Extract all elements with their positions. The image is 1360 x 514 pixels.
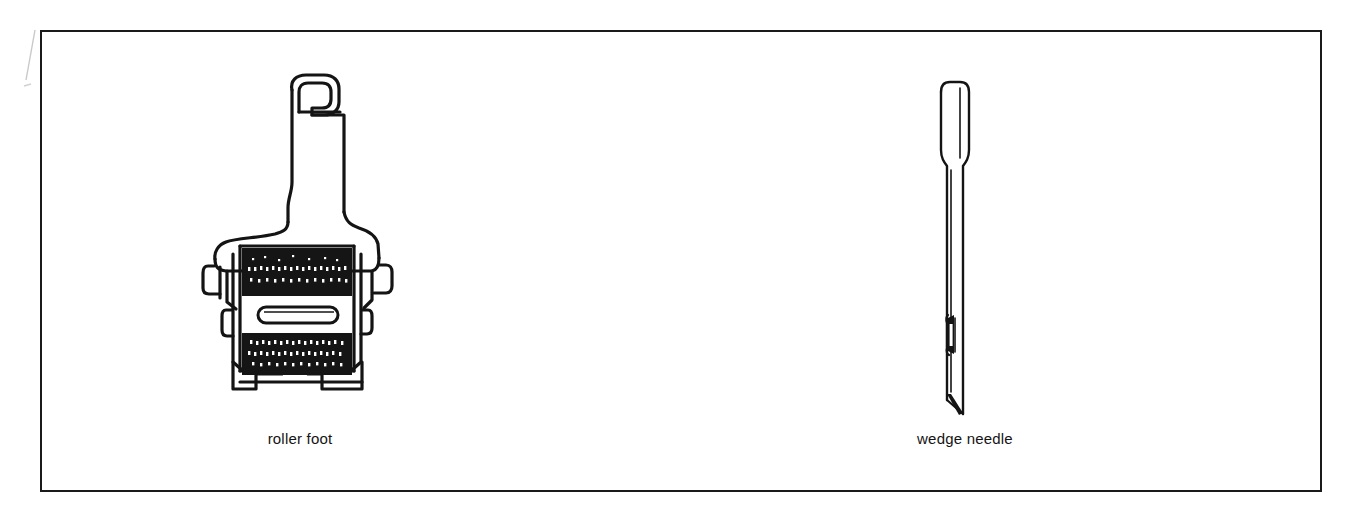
needle-eye <box>948 315 954 354</box>
wedge-needle-illustration <box>915 62 995 422</box>
lower-roller-band <box>243 334 351 374</box>
figure-root: roller foot <box>0 0 1360 514</box>
roller-foot-caption: roller foot <box>170 430 430 447</box>
needle-point <box>947 394 963 415</box>
roller-foot-illustration <box>196 62 406 402</box>
roller-foot-icon <box>196 62 406 402</box>
center-slot <box>258 307 338 323</box>
wedge-needle-caption: wedge needle <box>835 430 1095 447</box>
upper-roller-band <box>243 249 351 295</box>
scan-artifact-mark <box>22 28 38 98</box>
wedge-needle-icon <box>915 62 995 422</box>
